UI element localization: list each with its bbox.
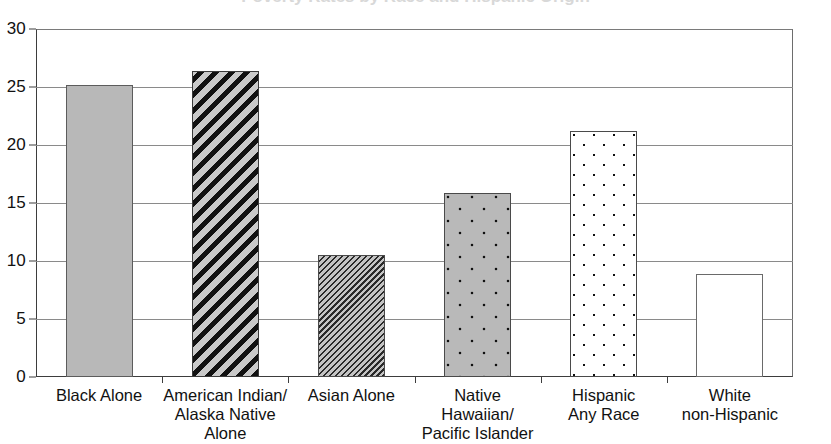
y-tick-mark — [29, 203, 36, 204]
bar-chart: Poverty Rates by Race and Hispanic Origi… — [0, 0, 831, 444]
y-axis: 051015202530 — [0, 29, 36, 377]
y-tick-label: 5 — [16, 309, 26, 329]
chart-title: Poverty Rates by Race and Hispanic Origi… — [0, 0, 831, 7]
y-tick-label: 25 — [7, 77, 26, 97]
x-tick-mark — [288, 377, 289, 383]
y-tick-label: 10 — [7, 251, 26, 271]
x-tick-mark — [541, 377, 542, 383]
x-tick-label: White non-Hispanic — [661, 386, 799, 424]
y-tick-mark — [29, 261, 36, 262]
y-tick-label: 20 — [7, 135, 26, 155]
y-tick-mark — [29, 377, 36, 378]
bars-layer — [36, 29, 793, 377]
bar — [570, 131, 637, 377]
y-tick-label: 0 — [16, 367, 26, 387]
x-axis-labels: Black AloneAmerican Indian/ Alaska Nativ… — [36, 386, 793, 444]
y-tick-label: 15 — [7, 193, 26, 213]
x-tick-label: American Indian/ Alaska Native Alone — [156, 386, 294, 443]
x-axis-ticks — [36, 377, 793, 384]
y-tick-mark — [29, 145, 36, 146]
y-tick-mark — [29, 319, 36, 320]
plot-area — [36, 29, 793, 377]
chart-title-cropped: Poverty Rates by Race and Hispanic Origi… — [0, 0, 831, 9]
bar — [444, 193, 511, 377]
x-tick-label: Black Alone — [30, 386, 168, 405]
x-tick-label: Hispanic Any Race — [535, 386, 673, 424]
y-tick-mark — [29, 29, 36, 30]
y-tick-label: 30 — [7, 19, 26, 39]
bar — [318, 255, 385, 377]
x-tick-mark — [162, 377, 163, 383]
bar — [696, 274, 763, 377]
bar — [192, 71, 259, 377]
x-tick-label: Asian Alone — [282, 386, 420, 405]
x-tick-mark — [667, 377, 668, 383]
y-tick-mark — [29, 87, 36, 88]
bar — [66, 85, 133, 377]
x-tick-mark — [415, 377, 416, 383]
x-tick-label: Native Hawaiian/ Pacific Islander — [409, 386, 547, 443]
